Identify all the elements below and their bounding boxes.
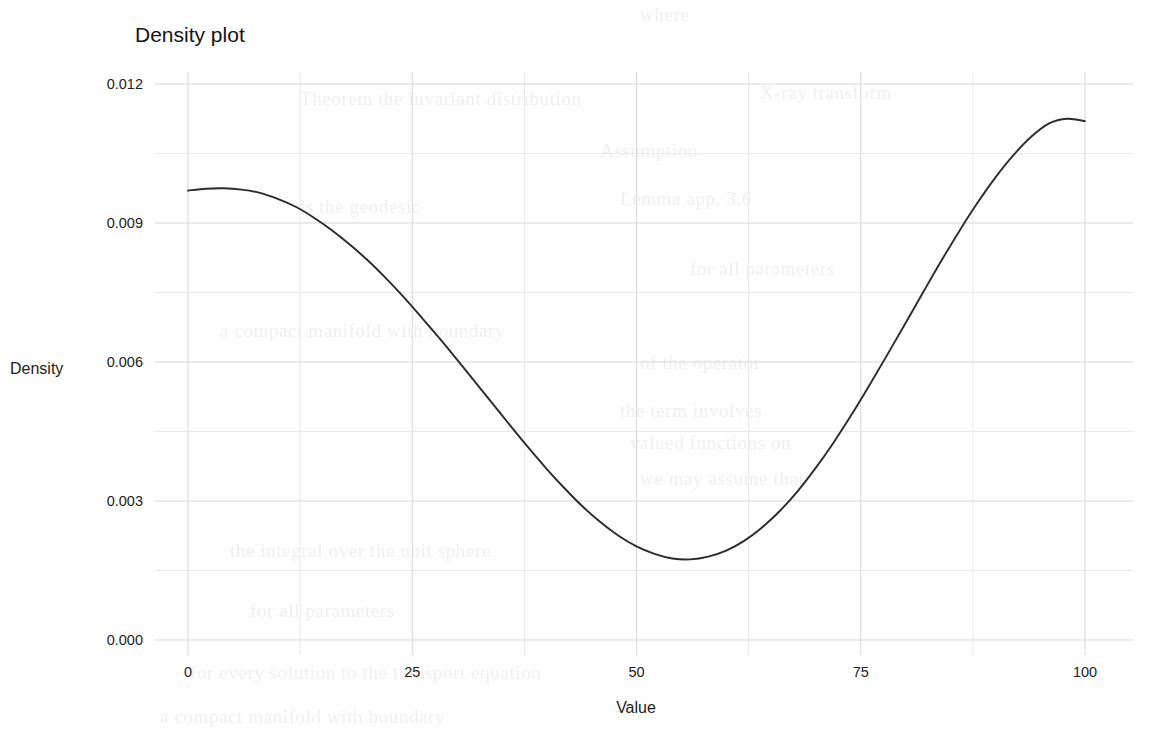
minor-gridlines xyxy=(155,72,1133,655)
density-plot-figure: 0.0000.0030.0060.0090.012 0255075100 Den… xyxy=(0,0,1151,746)
y-tick-label: 0.006 xyxy=(107,354,143,370)
x-tick-label: 25 xyxy=(404,664,420,680)
y-axis-tick-labels: 0.0000.0030.0060.0090.012 xyxy=(107,76,143,648)
x-axis-title: Value xyxy=(616,699,656,716)
x-tick-label: 75 xyxy=(853,664,869,680)
y-tick-label: 0.003 xyxy=(107,493,143,509)
y-axis-title: Density xyxy=(10,360,63,377)
y-tick-label: 0.000 xyxy=(107,632,143,648)
major-gridlines xyxy=(155,72,1133,655)
y-tick-label: 0.012 xyxy=(107,76,143,92)
y-tick-label: 0.009 xyxy=(107,215,143,231)
x-tick-label: 100 xyxy=(1073,664,1097,680)
density-plot-screenshot: where X-ray transform Theorem the invari… xyxy=(0,0,1151,746)
x-axis-tick-labels: 0255075100 xyxy=(184,664,1097,680)
plot-title: Density plot xyxy=(135,23,245,46)
x-tick-label: 50 xyxy=(628,664,644,680)
x-tick-label: 0 xyxy=(184,664,192,680)
